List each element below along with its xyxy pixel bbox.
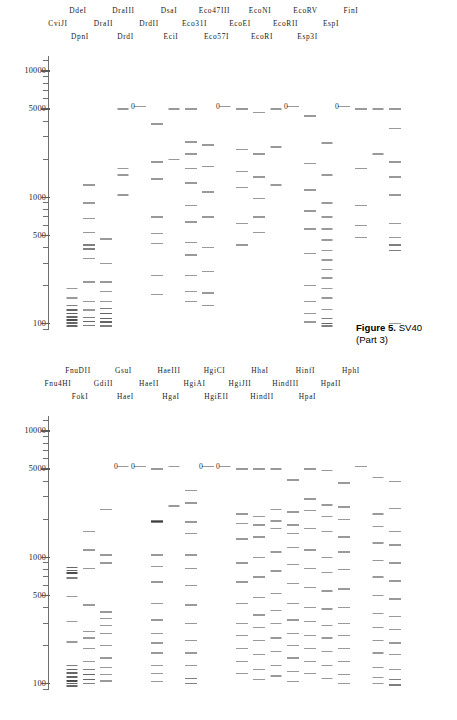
- gel-band: [389, 616, 401, 618]
- gel-band: [151, 603, 163, 605]
- gel-band: [355, 466, 367, 468]
- y-axis-tick-label: 5000: [2, 464, 46, 473]
- gel-band: [134, 106, 146, 108]
- gel-band: [322, 678, 333, 680]
- y-axis-minor-tick: [43, 450, 49, 451]
- y-axis-minor-tick: [43, 76, 49, 77]
- figure-caption-part3: Figure 5. SV40 (Part 3): [356, 322, 452, 345]
- gel-band: [100, 680, 112, 682]
- gel-band: [389, 176, 401, 178]
- gel-band: [67, 672, 78, 674]
- gel-band: [322, 608, 333, 610]
- enzyme-label-eco47iii: Eco47III: [199, 6, 230, 15]
- gel-band: [100, 611, 112, 613]
- y-axis-minor-tick: [43, 90, 49, 91]
- gel-band: [304, 321, 316, 323]
- gel-band: [304, 510, 316, 512]
- gel-band: [100, 657, 112, 659]
- gel-band: [83, 604, 95, 606]
- gel-band: [322, 557, 333, 559]
- y-axis-tick-label: 100: [2, 678, 46, 687]
- gel-band: [304, 648, 316, 650]
- gel-band: [83, 648, 95, 650]
- enzyme-label-gdiii: GdiII: [94, 379, 113, 388]
- gel-band: [67, 322, 78, 324]
- gel-band: [83, 325, 95, 327]
- enzyme-label-hgieii: HgiEII: [204, 392, 228, 401]
- gel-band: [253, 198, 265, 200]
- gel-band: [83, 202, 95, 204]
- gel-band: [185, 640, 197, 642]
- gel-band: [151, 619, 163, 621]
- y-axis-minor-tick: [43, 496, 49, 497]
- gel-band: [67, 577, 78, 579]
- gel-band: [373, 526, 384, 528]
- gel-band: [373, 640, 384, 642]
- gel-band: [83, 301, 95, 303]
- gel-band: [83, 531, 95, 533]
- gel-band: [67, 567, 78, 569]
- gel-band: [83, 281, 95, 283]
- gel-band: [185, 678, 197, 680]
- gel-band: [271, 146, 282, 148]
- gel-band: [322, 531, 333, 533]
- gel-band: [271, 610, 282, 612]
- gel-band: [304, 313, 316, 315]
- gel-band: [271, 570, 282, 572]
- gel-band: [100, 308, 112, 310]
- y-axis-major-tick: [41, 595, 50, 596]
- caption-subject: SV40: [399, 322, 422, 333]
- gel-band: [100, 238, 112, 240]
- gel-band: [151, 681, 163, 683]
- gel-band: [338, 648, 350, 650]
- gel-band: [83, 232, 95, 234]
- gel-band: [373, 153, 384, 155]
- gel-band: [287, 671, 299, 673]
- gel-band: [236, 187, 248, 189]
- gel-band: [118, 194, 129, 196]
- gel-band: [169, 505, 180, 507]
- gel-band: [185, 291, 197, 293]
- gel-band: [185, 182, 197, 184]
- gel-band: [389, 108, 401, 110]
- y-axis-major-tick: [41, 468, 50, 469]
- gel-band: [169, 108, 180, 110]
- gel-band: [236, 468, 248, 470]
- y-axis-major-tick: [41, 235, 50, 236]
- enzyme-label-draiii: DraIII: [112, 6, 134, 15]
- y-axis-minor-tick: [43, 458, 49, 459]
- gel-band: [118, 168, 129, 170]
- gel-band: [389, 194, 401, 196]
- gel-band: [253, 524, 265, 526]
- gel-band: [236, 523, 248, 525]
- enzyme-label-hpai: HpaI: [299, 392, 316, 401]
- enzyme-label-dsai: DsaI: [161, 6, 178, 15]
- gel-band: [322, 309, 333, 311]
- gel-band: [151, 673, 163, 675]
- gel-band: [202, 144, 214, 146]
- y-axis-major-tick: [41, 430, 50, 431]
- gel-band: [100, 674, 112, 676]
- gel-band: [253, 654, 265, 656]
- gel-band: [287, 533, 299, 535]
- gel-band: [338, 588, 350, 590]
- gel-band: [67, 669, 78, 671]
- y-axis-tick-label: 500: [2, 590, 46, 599]
- gel-band: [304, 661, 316, 663]
- gel-band: [236, 562, 248, 564]
- gel-band: [253, 679, 265, 681]
- gel-band: [118, 108, 129, 110]
- gel-band: [185, 585, 197, 587]
- gel-band: [100, 263, 112, 265]
- y-axis-major-tick: [41, 683, 50, 684]
- gel-band: [287, 603, 299, 605]
- enzyme-label-eco57i: Eco57I: [204, 32, 229, 41]
- gel-band: [185, 652, 197, 654]
- gel-band: [304, 673, 316, 675]
- gel-band: [185, 490, 197, 492]
- enzyme-label-ddei: DdeI: [69, 6, 86, 15]
- gel-band: [322, 504, 333, 506]
- enzyme-label-ecoei: EcoEI: [229, 19, 251, 28]
- gel-band: [253, 516, 265, 518]
- gel-band: [253, 576, 265, 578]
